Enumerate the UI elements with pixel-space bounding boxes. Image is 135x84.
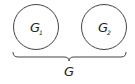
group-label-g: G <box>64 64 74 79</box>
underbrace <box>13 52 126 61</box>
node-g2: G 2 <box>82 5 127 50</box>
label-g1-subscript: 1 <box>39 29 43 36</box>
label-g2-subscript: 2 <box>107 29 111 36</box>
diagram-canvas: G 1 G 2 G <box>0 0 135 84</box>
node-g1: G 1 <box>14 5 59 50</box>
